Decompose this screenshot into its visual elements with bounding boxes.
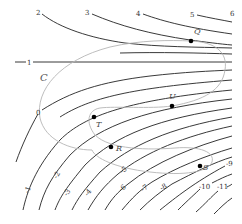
level-label-neg4: -4 bbox=[83, 187, 94, 198]
point-U-label: U bbox=[169, 92, 176, 101]
level-label-4: 4 bbox=[136, 10, 141, 18]
level-label-neg3: -3 bbox=[62, 188, 72, 198]
point-Q bbox=[189, 39, 194, 44]
point-S bbox=[198, 164, 203, 169]
point-T-label: T bbox=[96, 120, 102, 129]
level-label-6: 6 bbox=[230, 10, 235, 18]
contour-neg-5 bbox=[88, 126, 232, 210]
point-R bbox=[109, 145, 114, 150]
point-T bbox=[92, 115, 97, 120]
point-R-label: R bbox=[115, 144, 122, 153]
contour-figure: 2 3 4 5 6 1 0 -1 -2 -3 -4 -5 -6 -7 -8 -9… bbox=[0, 0, 242, 224]
level-label-0: 0 bbox=[36, 109, 40, 117]
contour-neg-1 bbox=[23, 90, 232, 210]
contour-5 bbox=[197, 15, 232, 22]
contour-0-lower bbox=[16, 114, 38, 162]
level-label-1: 1 bbox=[27, 59, 31, 67]
curve-C-label: C bbox=[40, 72, 48, 83]
point-S-label: S bbox=[203, 163, 209, 172]
level-label-neg11: -11 bbox=[217, 183, 228, 191]
contours-negative bbox=[16, 70, 232, 214]
contour-neg-12 bbox=[214, 198, 232, 214]
level-label-3: 3 bbox=[85, 9, 89, 17]
curve-C bbox=[39, 41, 225, 174]
level-label-neg2: -2 bbox=[52, 170, 62, 180]
level-label-2: 2 bbox=[36, 9, 40, 17]
level-label-neg8: -8 bbox=[159, 182, 169, 192]
level-label-5: 5 bbox=[190, 11, 194, 19]
contours-positive bbox=[42, 14, 232, 54]
level-label-neg1: -1 bbox=[23, 185, 33, 194]
contour-between-1-2 bbox=[120, 53, 232, 54]
point-U bbox=[170, 104, 175, 109]
contour-neg-7 bbox=[122, 148, 232, 210]
point-Q-label: Q bbox=[194, 27, 201, 36]
contour-neg-a bbox=[60, 80, 232, 117]
contour-4 bbox=[143, 14, 232, 34]
level-label-neg9: -9 bbox=[226, 160, 233, 168]
points: Q U T R S bbox=[92, 27, 209, 172]
level-label-neg10: -10 bbox=[199, 183, 210, 191]
